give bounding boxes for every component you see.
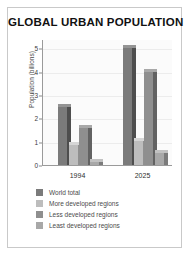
bar-face [155,153,164,165]
bar-face [144,72,153,165]
chart-title: GLOBAL URBAN POPULATION [8,16,181,28]
bar [123,48,132,165]
bar-side-shadow [99,162,103,166]
bar-top-face [144,69,157,72]
legend-item[interactable]: Less developed regions [36,209,166,220]
y-axis-ticks: 012345 [28,40,42,166]
x-tick-label: 2025 [135,172,151,179]
y-tick-label: 3 [34,93,38,100]
legend-label: More developed regions [49,200,119,207]
bar-face [58,107,67,165]
bar-face [90,162,99,166]
legend-item[interactable]: Least developed regions [36,220,166,231]
bar [69,145,78,165]
legend-swatch-icon [36,200,43,207]
legend-swatch-icon [36,189,43,196]
bar [155,153,164,165]
bar-face [79,128,88,165]
y-tick-label: 5 [34,46,38,53]
legend-label: Less developed regions [49,211,118,218]
bar-side-shadow [164,153,168,165]
bar [58,107,67,165]
bar-face [134,141,143,166]
bar [79,128,88,165]
bar-face [69,145,78,165]
legend-label: Least developed regions [49,222,120,229]
plot-area [42,40,172,166]
legend-label: World total [49,189,80,196]
y-tick-label: 0 [34,163,38,170]
plot-wrapper: Population (billions) 012345 19942025 [14,40,174,185]
bar-top-face [58,104,71,107]
legend-item[interactable]: World total [36,187,166,198]
bar [90,162,99,166]
x-tick-label: 1994 [70,172,86,179]
bar-top-face [79,125,92,128]
bar-top-face [90,159,103,162]
bar-face [123,48,132,165]
bar [134,141,143,166]
chart-figure: GLOBAL URBAN POPULATION Population (bill… [0,0,189,255]
gridline [43,49,172,50]
legend-item[interactable]: More developed regions [36,198,166,209]
bar [144,72,153,165]
y-tick-label: 1 [34,139,38,146]
chart-legend: World totalMore developed regionsLess de… [36,187,166,231]
bar-top-face [123,45,136,48]
bar-top-face [155,150,168,153]
y-tick-label: 2 [34,116,38,123]
legend-swatch-icon [36,211,43,218]
y-tick-label: 4 [34,69,38,76]
legend-swatch-icon [36,222,43,229]
